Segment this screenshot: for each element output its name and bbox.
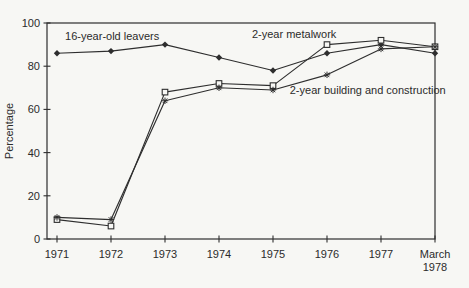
data-point-2-year-building-and-construction: [432, 44, 438, 50]
data-point-2-year-building-and-construction: [54, 214, 60, 220]
data-point-2-year-building-and-construction: [216, 85, 222, 91]
data-point-16-year-old-leavers: [324, 50, 330, 56]
y-tick-label: 100: [22, 17, 40, 29]
data-point-16-year-old-leavers: [432, 50, 438, 56]
data-point-16-year-old-leavers: [216, 54, 222, 60]
line-chart: 0204060801001971197219731974197519761977…: [0, 0, 469, 288]
chart-figure: 0204060801001971197219731974197519761977…: [0, 0, 469, 288]
data-point-2-year-building-and-construction: [270, 87, 276, 93]
chart-annotations: 16-year-old leavers2-year metalwork2-yea…: [65, 28, 446, 96]
y-tick-label: 20: [28, 190, 40, 202]
x-tick-label: 1971: [45, 248, 69, 260]
x-tick-label: 1972: [99, 248, 123, 260]
data-point-2-year-building-and-construction: [324, 72, 330, 78]
data-point-2-year-building-and-construction: [162, 98, 168, 104]
y-tick-label: 60: [28, 103, 40, 115]
data-point-2-year-building-and-construction: [108, 216, 114, 222]
data-point-2-year-metalwork: [162, 89, 168, 95]
series-label-2-year-metalwork: 2-year metalwork: [252, 28, 337, 40]
series-label-16-year-old-leavers: 16-year-old leavers: [65, 30, 160, 42]
series-line-2-year-metalwork: [57, 40, 435, 226]
x-tick-label: 1973: [153, 248, 177, 260]
x-tick-label: March1978: [420, 248, 451, 273]
y-tick-label: 0: [34, 233, 40, 245]
data-point-2-year-metalwork: [108, 223, 114, 229]
x-tick-label: 1976: [315, 248, 339, 260]
y-tick-label: 80: [28, 60, 40, 72]
data-point-16-year-old-leavers: [270, 67, 276, 73]
data-point-2-year-metalwork: [378, 37, 384, 43]
data-point-16-year-old-leavers: [162, 41, 168, 47]
y-tick-label: 40: [28, 147, 40, 159]
plot-frame: [47, 23, 435, 239]
data-point-2-year-building-and-construction: [378, 46, 384, 52]
data-point-16-year-old-leavers: [54, 50, 60, 56]
chart-series: [57, 40, 435, 226]
chart-axes: 0204060801001971197219731974197519761977…: [22, 17, 451, 273]
data-point-16-year-old-leavers: [108, 48, 114, 54]
x-tick-label: 1977: [369, 248, 393, 260]
chart-markers: [54, 37, 438, 228]
data-point-2-year-metalwork: [324, 42, 330, 48]
series-line-2-year-building-and-construction: [57, 47, 435, 220]
y-axis-title: Percentage: [3, 103, 15, 159]
x-tick-label: 1975: [261, 248, 285, 260]
x-tick-label: 1974: [207, 248, 231, 260]
series-label-2-year-building-and-construction: 2-year building and construction: [290, 84, 446, 96]
